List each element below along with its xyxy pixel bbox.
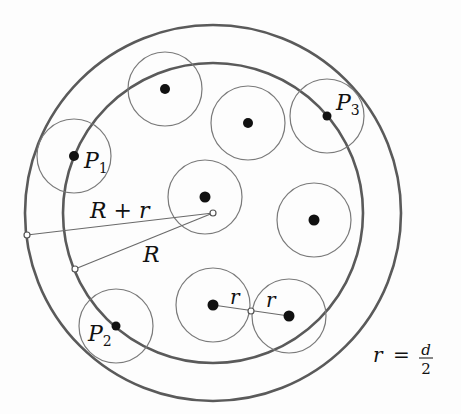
particle-center xyxy=(309,215,320,226)
outer-circle-point xyxy=(24,232,30,238)
point-p2 xyxy=(112,322,121,331)
formula-r-equals-d-over-2: r = d 2 xyxy=(373,341,433,378)
particle-center xyxy=(160,84,170,94)
tangent-point xyxy=(248,308,254,314)
particle-center xyxy=(243,118,253,128)
particle-center xyxy=(284,311,295,322)
particle-circles xyxy=(37,52,364,363)
particle-center xyxy=(200,192,211,203)
point-p1 xyxy=(69,151,79,161)
label-r-left: r xyxy=(230,285,241,309)
inner-circle-point xyxy=(72,266,78,272)
label-p2: P2 xyxy=(87,321,112,349)
label-p1: P1 xyxy=(83,148,108,176)
label-R: R xyxy=(142,242,160,267)
formula-equals: = xyxy=(393,343,410,367)
label-R-plus-r: R + r xyxy=(89,198,151,223)
particle-center xyxy=(208,300,219,311)
formula-lhs: r xyxy=(373,343,384,367)
center-point xyxy=(210,210,216,216)
formula-numerator: d xyxy=(421,341,431,359)
packing-diagram: P1 P3 P2 R + r R r r r = d 2 xyxy=(0,0,461,414)
label-p3: P3 xyxy=(335,90,360,118)
label-r-right: r xyxy=(266,288,277,312)
point-p3 xyxy=(323,112,332,121)
formula-denominator: 2 xyxy=(421,360,431,378)
